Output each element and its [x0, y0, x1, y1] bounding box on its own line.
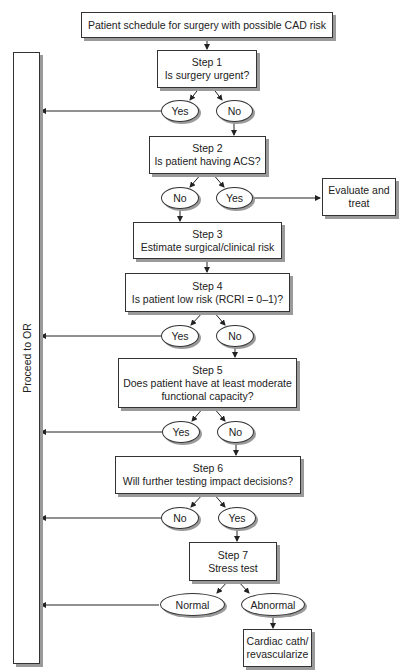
step1-title: Step 1 — [192, 56, 222, 69]
step5-yes-oval: Yes — [162, 421, 200, 443]
cath-line2: revascularize — [247, 648, 309, 661]
step2-box: Step 2 Is patient having ACS? — [149, 136, 266, 174]
step6-box: Step 6 Will further testing impact decis… — [115, 456, 301, 494]
step7-title: Step 7 — [218, 549, 248, 562]
cath-line1: Cardiac cath/ — [247, 635, 309, 648]
step4-question: Is patient low risk (RCRI = 0–1)? — [132, 293, 283, 306]
step7-abnormal-oval: Abnormal — [241, 593, 305, 616]
step7-normal-oval: Normal — [160, 593, 225, 616]
proceed-to-or-label: Proceed to OR — [21, 323, 33, 392]
step3-box: Step 3 Estimate surgical/clinical risk — [133, 222, 282, 259]
step4-no-oval: No — [216, 325, 254, 347]
step7-abnormal-label: Abnormal — [251, 599, 296, 611]
evaluate-treat-box: Evaluate and treat — [322, 178, 396, 216]
step5-yes-label: Yes — [172, 426, 189, 438]
step6-yes-oval: Yes — [218, 507, 256, 529]
step6-title: Step 6 — [193, 462, 223, 475]
proceed-to-or-bar: Proceed to OR — [13, 52, 40, 664]
step7-normal-label: Normal — [176, 599, 210, 611]
step3-title: Step 3 — [192, 228, 222, 241]
step1-yes-label: Yes — [171, 105, 188, 117]
step6-no-label: No — [173, 512, 186, 524]
evaluate-line2: treat — [348, 197, 369, 210]
step2-no-label: No — [173, 192, 186, 204]
step1-yes-oval: Yes — [161, 100, 199, 122]
step5-no-label: No — [229, 426, 242, 438]
step1-no-oval: No — [216, 100, 253, 122]
step4-title: Step 4 — [192, 280, 222, 293]
step6-yes-label: Yes — [228, 512, 245, 524]
step5-title: Step 5 — [192, 364, 222, 377]
step6-no-oval: No — [161, 507, 199, 529]
step5-question-line2: functional capacity? — [161, 390, 253, 403]
step4-yes-oval: Yes — [161, 325, 199, 347]
step2-no-oval: No — [161, 187, 199, 209]
step2-title: Step 2 — [192, 142, 222, 155]
evaluate-line1: Evaluate and — [328, 184, 389, 197]
step4-box: Step 4 Is patient low risk (RCRI = 0–1)? — [125, 273, 290, 312]
step7-box: Step 7 Stress test — [189, 542, 277, 581]
step6-question: Will further testing impact decisions? — [123, 475, 293, 488]
step4-no-label: No — [228, 330, 241, 342]
step1-no-label: No — [228, 105, 241, 117]
step5-no-oval: No — [217, 421, 254, 443]
step7-question: Stress test — [208, 562, 258, 575]
start-box: Patient schedule for surgery with possib… — [81, 12, 333, 38]
step1-box: Step 1 Is surgery urgent? — [157, 50, 257, 88]
step5-box: Step 5 Does patient have at least modera… — [118, 358, 297, 408]
cardiac-cath-box: Cardiac cath/ revascularize — [243, 629, 312, 667]
step3-question: Estimate surgical/clinical risk — [141, 241, 275, 254]
step1-question: Is surgery urgent? — [165, 69, 250, 82]
step2-yes-label: Yes — [226, 192, 243, 204]
start-text: Patient schedule for surgery with possib… — [88, 19, 326, 32]
step5-question-line1: Does patient have at least moderate — [123, 377, 292, 390]
step2-yes-oval: Yes — [216, 187, 253, 209]
step4-yes-label: Yes — [171, 330, 188, 342]
step2-question: Is patient having ACS? — [154, 155, 260, 168]
